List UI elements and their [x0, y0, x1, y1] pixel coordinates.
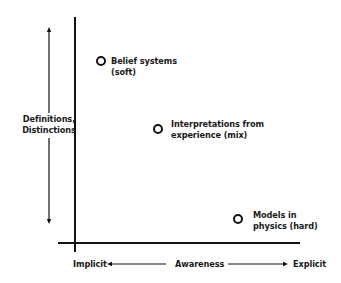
axes-graphic — [0, 0, 341, 283]
point-label-line2: (soft) — [111, 67, 177, 78]
point-label-line1: Interpretations from — [171, 119, 264, 130]
point-marker-belief-systems — [96, 56, 106, 66]
y-axis-label-line2: Distinctions — [14, 125, 84, 136]
point-label-models-in-physics: Models in physics (hard) — [253, 210, 318, 231]
x-axis-left-label: Implicit — [73, 259, 107, 270]
x-axis-center-label: Awareness — [175, 259, 224, 270]
x-axis-right-label: Explicit — [293, 259, 326, 270]
point-label-line2: physics (hard) — [253, 221, 318, 232]
point-label-belief-systems: Belief systems (soft) — [111, 56, 177, 77]
y-axis-label-line1: Definitions, — [14, 114, 84, 125]
point-label-line2: experience (mix) — [171, 130, 264, 141]
y-axis-label: Definitions, Distinctions — [14, 114, 84, 135]
point-label-line1: Models in — [253, 210, 318, 221]
right-arrow-icon — [228, 262, 288, 266]
point-marker-models-in-physics — [233, 214, 243, 224]
diagram-canvas: Definitions, Distinctions Belief systems… — [0, 0, 341, 283]
point-label-interpretations: Interpretations from experience (mix) — [171, 119, 264, 140]
left-arrow-icon — [107, 262, 166, 266]
point-marker-interpretations — [153, 124, 163, 134]
point-label-line1: Belief systems — [111, 56, 177, 67]
